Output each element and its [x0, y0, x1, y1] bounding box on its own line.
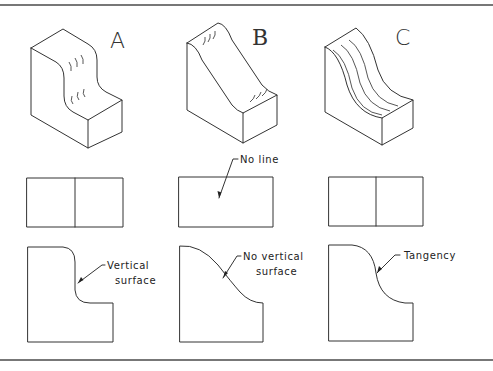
isometric-a: [31, 29, 122, 148]
front-view-c: [329, 245, 413, 341]
leader-no-line: [219, 159, 238, 198]
arrowhead-icon: [78, 277, 84, 283]
callout-no-line: No line: [240, 154, 279, 165]
label-a: A: [110, 28, 125, 53]
front-view-a: [28, 247, 113, 342]
arrowhead-icon: [377, 266, 382, 273]
top-view-c: [329, 177, 423, 226]
callout-tangency: Tangency: [403, 250, 456, 261]
top-view-b: [179, 159, 273, 227]
label-c: C: [395, 25, 410, 50]
top-view-a: [27, 178, 123, 227]
label-b: B: [252, 25, 268, 50]
callout-no-vertical: No vertical: [243, 251, 304, 262]
callout-vertical: Vertical: [107, 260, 149, 271]
callout-surface-b: surface: [256, 266, 297, 277]
callout-surface: surface: [115, 275, 156, 286]
drawing-canvas: A B C No line: [0, 0, 493, 371]
